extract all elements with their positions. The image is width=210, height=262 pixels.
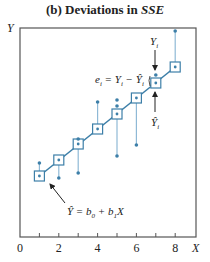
observed-point	[173, 29, 177, 33]
observed-point	[115, 98, 119, 102]
observed-point	[96, 100, 100, 104]
observed-point	[76, 171, 80, 175]
observed-point	[115, 104, 119, 108]
observed-point	[135, 143, 139, 147]
residual-bracket	[149, 76, 150, 86]
residual-plot: 02468XYYiei = Yi − ŶiŶiŶ = b0 + b1X	[0, 0, 210, 262]
regression-equation: Ŷ = b0 + b1X	[67, 205, 125, 220]
y-axis-label: Y	[7, 21, 15, 35]
yhat-label: Ŷi	[151, 116, 159, 131]
observed-point	[57, 176, 61, 180]
fitted-dot	[77, 143, 80, 146]
x-tick-label: 4	[95, 241, 101, 255]
fitted-dot	[38, 175, 41, 178]
x-tick-label: 8	[172, 241, 178, 255]
x-tick-label: 2	[56, 241, 62, 255]
yi-label: Yi	[150, 35, 158, 50]
equation-arrow	[50, 184, 65, 203]
fitted-dot	[96, 128, 99, 131]
observed-point	[76, 137, 80, 141]
fitted-dot	[57, 159, 60, 162]
residual-annotation: ei = Yi − Ŷi	[95, 73, 144, 88]
x-axis-label: X	[191, 241, 200, 255]
x-tick-label: 6	[133, 241, 139, 255]
fitted-dot	[135, 97, 138, 100]
fitted-dot	[116, 113, 119, 116]
observed-point	[154, 73, 158, 77]
fitted-dot	[154, 82, 157, 85]
observed-point	[38, 161, 42, 165]
x-tick-label: 0	[17, 241, 23, 255]
fitted-dot	[174, 66, 177, 69]
observed-point	[115, 154, 119, 158]
